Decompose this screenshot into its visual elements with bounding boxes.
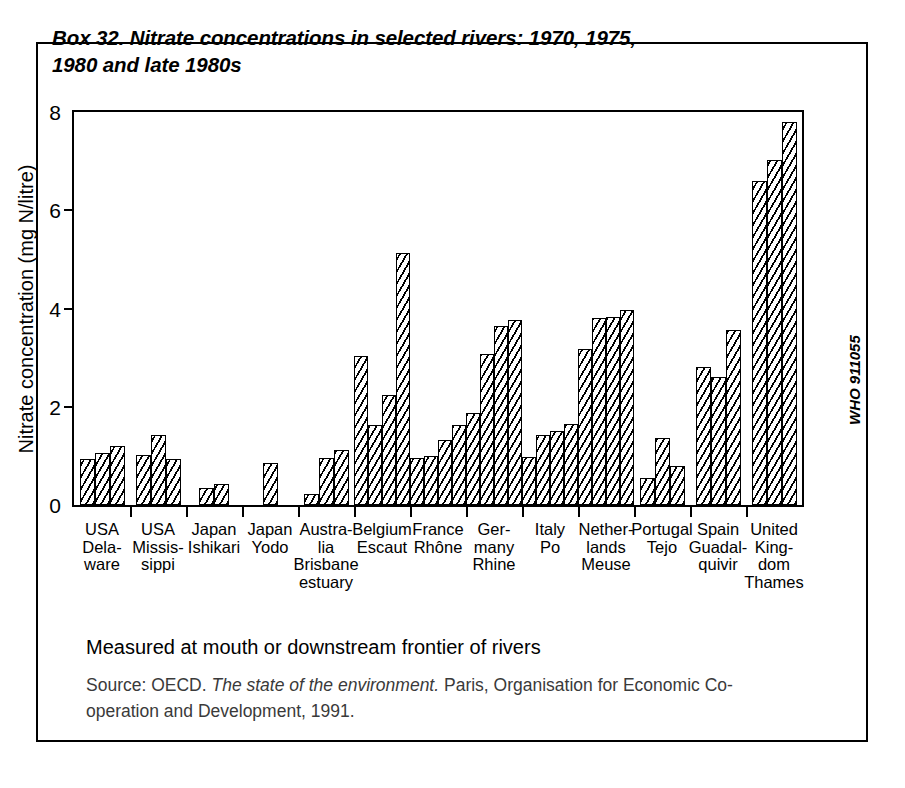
bar — [396, 253, 410, 505]
bar-group — [298, 112, 354, 505]
x-axis-separator — [746, 505, 748, 517]
bar-group — [74, 112, 130, 505]
bar — [578, 349, 592, 505]
bar — [136, 455, 151, 505]
bar — [452, 425, 466, 505]
y-tick-mark-6 — [64, 209, 74, 211]
measured-note: Measured at mouth or downstream frontier… — [86, 636, 541, 659]
source-note: Source: OECD. The state of the environme… — [86, 672, 786, 724]
bar — [214, 484, 229, 505]
bar — [319, 458, 334, 505]
bar — [166, 459, 181, 505]
x-axis-separator — [690, 505, 692, 517]
bar — [466, 413, 480, 505]
bar — [494, 326, 508, 505]
bar — [438, 440, 452, 505]
bar — [508, 320, 522, 505]
bar-group — [746, 112, 802, 505]
bar-group — [522, 112, 578, 505]
bar — [80, 459, 95, 505]
bar — [767, 160, 782, 505]
y-tick-label-8: 8 — [49, 102, 61, 123]
x-axis-separator — [466, 505, 468, 517]
y-axis-title: Nitrate concentration (mg N/litre) — [15, 164, 38, 453]
bar-group — [578, 112, 634, 505]
bar — [640, 478, 655, 506]
x-axis-separator — [186, 505, 188, 517]
bar — [424, 456, 438, 505]
source-prefix: Source: OECD. — [86, 675, 211, 695]
bar — [334, 450, 349, 506]
bar — [263, 463, 278, 505]
bar — [550, 431, 564, 505]
bar-group — [186, 112, 242, 505]
bar — [726, 330, 741, 505]
bar — [95, 453, 110, 505]
bar — [304, 494, 319, 505]
page-title: Box 32. Nitrate concentrations in select… — [52, 24, 652, 78]
y-tick-label-4: 4 — [49, 298, 61, 319]
y-tick-mark-2 — [64, 406, 74, 408]
bar — [564, 424, 578, 505]
bar — [368, 425, 382, 505]
y-tick-mark-4 — [64, 308, 74, 310]
bar — [110, 446, 125, 505]
bars-layer — [74, 112, 802, 505]
bar — [199, 488, 214, 505]
bar-group — [466, 112, 522, 505]
chart-plot-area: Nitrate concentration (mg N/litre) 02468… — [72, 110, 804, 507]
bar-group — [410, 112, 466, 505]
bar — [536, 435, 550, 505]
bar — [606, 317, 620, 505]
bar — [382, 395, 396, 505]
bar-group — [130, 112, 186, 505]
bar — [670, 466, 685, 505]
bar — [655, 438, 670, 505]
y-tick-label-6: 6 — [49, 200, 61, 221]
x-axis-separator — [242, 505, 244, 517]
x-axis-separator — [578, 505, 580, 517]
bar — [752, 181, 767, 505]
x-tick-label: United King- dom Thames — [737, 521, 811, 591]
y-tick-label-2: 2 — [49, 396, 61, 417]
y-tick-label-0: 0 — [49, 495, 61, 516]
bar — [696, 367, 711, 505]
who-code: WHO 911055 — [846, 335, 863, 425]
bar — [151, 435, 166, 505]
source-title: The state of the environment. — [211, 675, 439, 695]
x-axis-separator — [130, 505, 132, 517]
bar-group — [690, 112, 746, 505]
bar — [592, 318, 606, 505]
bar — [522, 457, 536, 505]
x-axis-separator — [410, 505, 412, 517]
bar — [620, 310, 634, 505]
bar — [480, 354, 494, 505]
bar-group — [634, 112, 690, 505]
bar — [782, 122, 797, 505]
bar — [410, 458, 424, 505]
bar — [711, 377, 726, 505]
x-axis-separator — [522, 505, 524, 517]
x-axis-separator — [634, 505, 636, 517]
x-axis-separator — [298, 505, 300, 517]
bar-group — [242, 112, 298, 505]
x-axis-separator — [354, 505, 356, 517]
bar — [354, 356, 368, 505]
bar-group — [354, 112, 410, 505]
